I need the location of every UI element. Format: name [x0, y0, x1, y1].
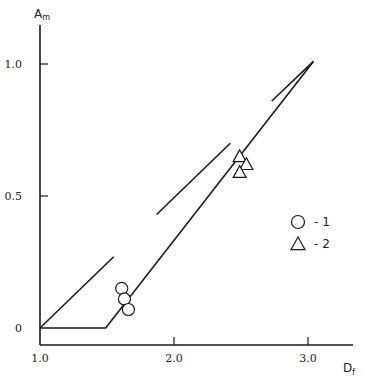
legend: - 1- 2: [291, 215, 330, 251]
y-tick-label: 1.0: [5, 58, 23, 71]
circle-marker: [122, 304, 134, 316]
upper-bound-segment: [272, 61, 314, 101]
legend-triangle-icon: [291, 237, 305, 250]
y-axis-label: Am: [34, 7, 50, 22]
chart: 1.02.03.000.51.0 - 1- 2 Am Df: [0, 0, 369, 383]
middle-bound-segment: [157, 143, 231, 214]
y-tick-label: 0.5: [5, 190, 23, 203]
axes: [40, 25, 353, 345]
plot-lines: [40, 61, 313, 328]
x-axis-label: Df: [343, 361, 355, 377]
y-tick-label: 0: [15, 322, 22, 335]
x-tick-label: 2.0: [165, 352, 183, 365]
x-tick-label: 3.0: [299, 352, 317, 365]
data-markers: [116, 150, 253, 316]
x-tick-label: 1.0: [31, 352, 49, 365]
legend-circle-icon: [292, 216, 305, 229]
left-bound-line: [40, 257, 114, 328]
legend-label: - 2: [314, 237, 330, 251]
triangle-marker: [233, 150, 246, 162]
legend-label: - 1: [314, 215, 330, 229]
